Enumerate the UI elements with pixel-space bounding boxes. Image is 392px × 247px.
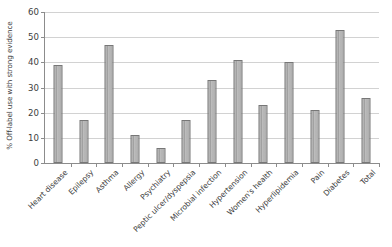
bar xyxy=(79,120,88,163)
x-tick-label: Diabetes xyxy=(322,168,352,198)
y-tick-label: 20 xyxy=(28,108,39,118)
bar-slot xyxy=(71,12,97,163)
plot-area: 0102030405060 xyxy=(44,12,379,164)
y-tick-label: 40 xyxy=(28,57,39,67)
x-tick-mark xyxy=(96,163,97,167)
y-axis-title-text: % Off-label use with strong evidence xyxy=(5,21,14,149)
bar-slot xyxy=(45,12,71,163)
y-tick-label: 30 xyxy=(28,83,39,93)
bar xyxy=(336,30,345,163)
bar xyxy=(156,148,165,163)
x-tick-mark xyxy=(302,163,303,167)
x-tick-label: Women's health xyxy=(226,168,275,217)
y-axis-title: % Off-label use with strong evidence xyxy=(0,0,18,170)
bar xyxy=(207,80,216,163)
y-tick-label: 60 xyxy=(28,7,39,17)
x-tick-mark xyxy=(122,163,123,167)
x-tick-label: Total xyxy=(359,168,378,187)
bar-slot xyxy=(225,12,251,163)
x-tick-label: Heart disease xyxy=(26,168,69,211)
x-tick-label: Allergy xyxy=(122,168,147,193)
x-axis-labels: Heart diseaseEpilepsyAsthmaAllergyPsychi… xyxy=(44,168,392,247)
bar xyxy=(233,60,242,163)
x-tick-mark xyxy=(328,163,329,167)
bar-slot xyxy=(148,12,174,163)
bar xyxy=(259,105,268,163)
bar-chart: % Off-label use with strong evidence 010… xyxy=(0,0,392,247)
bar xyxy=(130,135,139,163)
bar-slot xyxy=(276,12,302,163)
y-tick-label: 0 xyxy=(34,158,39,168)
bar xyxy=(362,98,371,163)
y-tick-mark xyxy=(41,163,45,164)
x-tick-label: Pain xyxy=(309,168,326,185)
bar-slot xyxy=(96,12,122,163)
x-tick-mark xyxy=(148,163,149,167)
bar-series xyxy=(45,12,379,163)
bar-slot xyxy=(328,12,354,163)
bar xyxy=(182,120,191,163)
x-tick-mark xyxy=(379,163,380,167)
bar-slot xyxy=(353,12,379,163)
bar-slot xyxy=(122,12,148,163)
bar-slot xyxy=(199,12,225,163)
x-tick-mark xyxy=(225,163,226,167)
x-tick-mark xyxy=(199,163,200,167)
x-tick-mark xyxy=(173,163,174,167)
y-tick-label: 50 xyxy=(28,32,39,42)
x-tick-mark xyxy=(276,163,277,167)
bar-slot xyxy=(302,12,328,163)
bar-slot xyxy=(251,12,277,163)
x-tick-label: Epilepsy xyxy=(66,168,95,197)
bar xyxy=(53,65,62,163)
x-tick-mark xyxy=(353,163,354,167)
bar xyxy=(285,62,294,163)
x-tick-mark xyxy=(71,163,72,167)
y-tick-label: 10 xyxy=(28,133,39,143)
x-tick-label: Asthma xyxy=(94,168,121,195)
bar xyxy=(310,110,319,163)
x-tick-mark xyxy=(251,163,252,167)
bar xyxy=(105,45,114,163)
bar-slot xyxy=(173,12,199,163)
